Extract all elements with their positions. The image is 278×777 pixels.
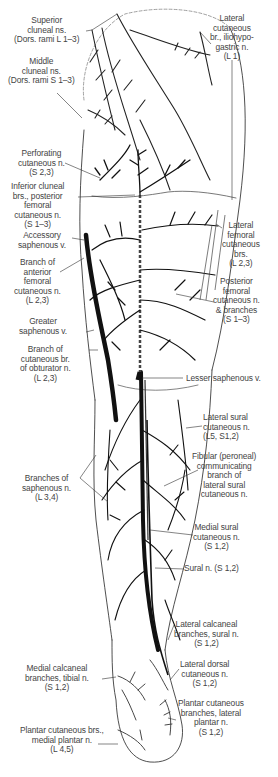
label-lateral-femoral-cutaneous-branches: Lateral femoral cutaneous brs. (L 2,3) [222, 221, 260, 269]
label-superior-cluneal-nerves: Superior cluneal ns. (Dors. rami L 1–3) [14, 16, 79, 45]
label-accessory-saphenous-vein: Accessory saphenous v. [18, 231, 66, 250]
label-lateral-dorsal-cutaneous-nerve: Lateral dorsal cutaneous n. (S 1,2) [180, 660, 229, 689]
label-greater-saphenous-vein: Greater saphenous v. [19, 317, 67, 336]
label-plantar-cutaneous-lateral-plantar: Plantar cutaneous branches, lateral plan… [178, 699, 244, 737]
label-branches-saphenous-nerve: Branches of saphenous n. (L 3,4) [22, 474, 71, 503]
label-inferior-cluneal-branches: Inferior cluneal brs., posterior femoral… [11, 182, 64, 230]
label-branch-obturator-cutaneous: Branch of cutaneous br. of obturator n. … [20, 345, 71, 383]
inferior-cluneal-branches [95, 145, 190, 195]
label-lateral-calcaneal-branches: Lateral calcaneal branches, sural n. (S … [174, 620, 239, 649]
foot-branches [118, 660, 172, 750]
cluneal-nerve-branches [88, 14, 212, 190]
label-plantar-cutaneous-medial-plantar: Plantar cutaneous brs., medial plantar n… [20, 726, 104, 755]
posterior-femoral-branches [90, 212, 218, 360]
posterior-limb-nerve-diagram: Superior cluneal ns. (Dors. rami L 1–3) … [0, 0, 278, 777]
label-posterior-femoral-cutaneous-nerve: Posterior femoral cutaneous n. & branche… [213, 277, 260, 325]
heel-outline [112, 640, 183, 762]
label-lateral-cutaneous-iliohypogastric: Lateral cutaneous br., iliohypo- gastric… [210, 14, 254, 62]
popliteal-crease [118, 385, 198, 390]
label-sural-nerve: Sural n. (S 1,2) [184, 564, 239, 574]
sural-nerve [147, 420, 168, 675]
label-medial-sural-cutaneous-nerve: Medial sural cutaneous n. (S 1,2) [193, 523, 240, 552]
label-perforating-cutaneous-nerve: Perforating cutaneous n. (S 2,3) [18, 149, 65, 178]
label-lesser-saphenous-vein: Lesser saphenous v. [186, 374, 261, 384]
label-middle-cluneal-nerves: Middle cluneal ns. (Dors. rami S 1–3) [8, 57, 75, 86]
label-medial-calcaneal-branches: Medial calcaneal branches, tibial n. (S … [25, 664, 89, 693]
limb-drawing [0, 0, 278, 777]
gluteal-fold [92, 191, 236, 198]
label-lateral-sural-cutaneous-nerve: Lateral sural cutaneous n. (L5, S1,2) [203, 413, 250, 442]
lesser-saphenous-termination [138, 372, 140, 380]
label-branch-anterior-femoral-cutaneous: Branch of anterior femoral cutaneous n. … [14, 258, 61, 306]
label-fibular-communicating-branch: Fibular (peroneal) communicating branch … [192, 452, 256, 500]
